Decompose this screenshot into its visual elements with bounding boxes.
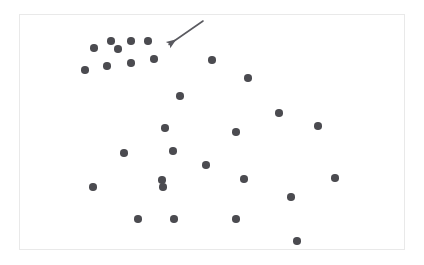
data-point	[176, 92, 184, 100]
data-point	[127, 37, 135, 45]
data-point	[232, 128, 240, 136]
data-point	[202, 161, 210, 169]
data-point	[114, 45, 122, 53]
data-point	[120, 149, 128, 157]
data-point	[314, 122, 322, 130]
scatter-figure	[0, 0, 424, 265]
data-point	[158, 176, 166, 184]
data-point	[293, 237, 301, 245]
data-point	[275, 109, 283, 117]
data-point	[240, 175, 248, 183]
data-point	[232, 215, 240, 223]
data-point	[161, 124, 169, 132]
data-point	[287, 193, 295, 201]
data-point	[107, 37, 115, 45]
scatter-points-layer	[0, 0, 424, 265]
data-point	[134, 215, 142, 223]
data-point	[159, 183, 167, 191]
data-point	[169, 147, 177, 155]
data-point	[170, 215, 178, 223]
data-point	[244, 74, 252, 82]
data-point	[127, 59, 135, 67]
data-point	[81, 66, 89, 74]
data-point	[103, 62, 111, 70]
data-point	[208, 56, 216, 64]
data-point	[150, 55, 158, 63]
data-point	[90, 44, 98, 52]
data-point	[331, 174, 339, 182]
data-point	[144, 37, 152, 45]
data-point	[89, 183, 97, 191]
